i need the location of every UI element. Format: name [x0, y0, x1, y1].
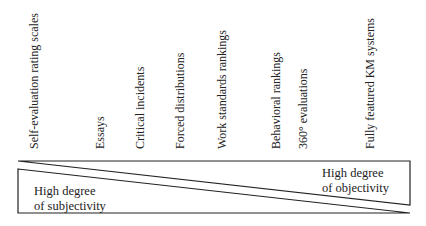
objectivity-line1: High degree	[322, 166, 389, 181]
objectivity-label: High degree of objectivity	[322, 166, 389, 196]
subjectivity-line2: of subjectivity	[34, 199, 106, 214]
objectivity-line2: of objectivity	[322, 181, 389, 196]
subjectivity-line1: High degree	[34, 184, 106, 199]
subjectivity-label: High degree of subjectivity	[34, 184, 106, 214]
